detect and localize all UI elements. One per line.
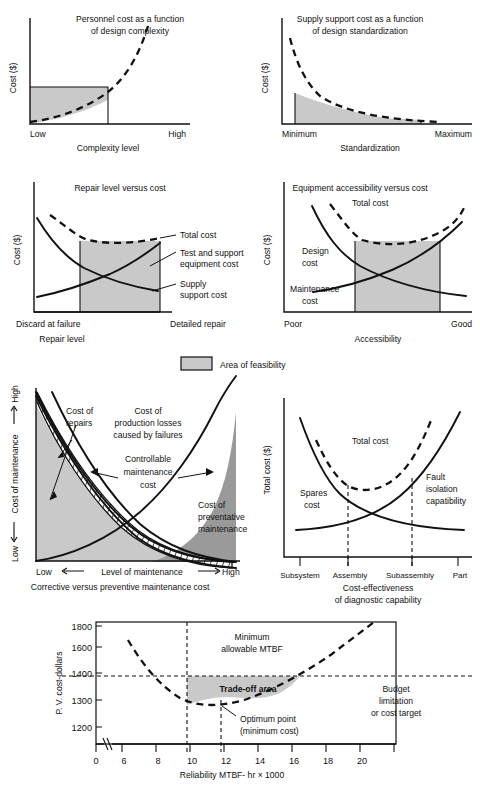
chart7-xtick-10: 10 <box>187 756 197 766</box>
chart7-ytick-1400: 1400 <box>72 669 92 679</box>
chart1-xlabel: Complexity level <box>77 143 140 153</box>
figure-container: Personnel cost as a function of design c… <box>0 0 480 786</box>
chart7-xlabel: Reliability MTBF- hr × 1000 <box>180 770 285 780</box>
chart3-leader-total <box>160 235 176 238</box>
chart5-ylabel-high: High <box>10 385 20 403</box>
chart1-xtick-low: Low <box>30 129 47 139</box>
chart5-xlabel-high: High <box>222 567 240 577</box>
chart5-label-repairs1: Cost of <box>66 406 94 416</box>
chart6-ylabel: Total cost ($) <box>262 445 272 494</box>
chart6-label-fault1: Fault <box>426 472 446 482</box>
chart6-fault-isolation-curve <box>296 412 460 530</box>
chart7-label-tradeoff: Trade-off area <box>220 684 277 694</box>
chart3-xtick-discard: Discard at failure <box>16 319 81 329</box>
chart4-xtick-poor: Poor <box>284 319 302 329</box>
chart7-ytick-1200: 1200 <box>72 723 92 733</box>
chart6-label-total: Total cost <box>352 436 389 446</box>
chart5-label-ctrl1: Controllable <box>125 454 171 464</box>
chart5-caption: Corrective versus preventive maintenance… <box>31 582 210 592</box>
chart1-xtick-high: High <box>168 129 186 139</box>
chart3-total-cost-curve <box>50 215 160 243</box>
chart7-leader-optimum <box>222 706 236 716</box>
chart5-label-prev3: maintenance <box>198 524 247 534</box>
chart7-label-budget1: Budget <box>382 684 410 694</box>
chart4-label-maint1: Maintenance <box>290 284 339 294</box>
chart7-label-minmtbf1: Minimum <box>235 632 270 642</box>
chart7-xtick-12: 12 <box>221 756 231 766</box>
chart6-xticks-marks <box>300 557 458 566</box>
chart5-label-prev1: Cost of <box>198 500 226 510</box>
chart7-ylabel: P. V. cost-dollars <box>54 651 64 714</box>
chart7-xtick-18: 18 <box>323 756 333 766</box>
chart4-label-maint2: cost <box>302 296 318 306</box>
legend-label: Area of feasibility <box>220 360 286 370</box>
chart7-ytick-1600: 1600 <box>72 643 92 653</box>
chart3-label-total: Total cost <box>180 230 217 240</box>
chart5-yarrow-low <box>11 522 17 542</box>
chart2-xtick-min: Minimum <box>282 129 317 139</box>
chart-mtbf-tradeoff: 1800 1600 1400 1300 1200 P. V. cost-doll… <box>54 622 472 780</box>
chart7-label-budget3: or cost target <box>371 708 422 718</box>
chart-corrective-vs-preventive: Cost of repairs Cost of production losse… <box>10 376 247 592</box>
chart-repair-level-cost: Repair level versus cost Total cost Test… <box>12 182 244 344</box>
chart7-label-budget2: limitation <box>379 696 413 706</box>
chart3-label-test2: equipment cost <box>180 259 239 269</box>
chart3-label-supply2: support cost <box>180 290 227 300</box>
chart-personnel-cost: Personnel cost as a function of design c… <box>8 14 190 153</box>
chart4-label-design1: Design <box>302 246 329 256</box>
chart5-label-ctrl2: maintenance <box>123 467 172 477</box>
chart5-label-ctrl3: cost <box>140 480 156 490</box>
chart7-label-minmtbf2: allowable MTBF <box>221 644 283 654</box>
chart7-xtick-20: 20 <box>357 756 367 766</box>
chart7-xtick-0: 0 <box>93 756 98 766</box>
chart2-ylabel: Cost ($) <box>260 63 270 94</box>
chart6-xtick-subassembly: Subassembly <box>386 571 434 580</box>
chart4-xlabel: Accessibility <box>355 334 403 344</box>
chart5-ylabel-low: Low <box>10 545 20 562</box>
chart5-label-prod3: caused by failures <box>113 430 182 440</box>
legend-swatch <box>181 357 212 370</box>
chart6-xtick-subsystem: Subsystem <box>280 571 320 580</box>
chart6-xtick-part: Part <box>453 571 468 580</box>
chart7-ytick-1800: 1800 <box>72 622 92 632</box>
chart5-xarrow-low <box>62 568 84 574</box>
chart4-ylabel: Cost ($) <box>262 235 272 266</box>
chart6-label-spares2: cost <box>304 500 320 510</box>
chart3-title: Repair level versus cost <box>74 183 166 193</box>
chart5-arrow-ctrl-right <box>206 468 214 476</box>
chart4-title: Equipment accessibility versus cost <box>292 183 428 193</box>
chart3-ylabel: Cost ($) <box>12 235 22 266</box>
chart-diagnostic-capability: Total cost Spares cost Fault isolation c… <box>262 398 472 605</box>
chart4-xtick-good: Good <box>451 319 472 329</box>
chart5-label-repairs2: repairs <box>66 418 92 428</box>
chart5-xarrow-high <box>198 568 220 574</box>
chart3-label-test1: Test and support <box>180 248 244 258</box>
legend-area-of-feasibility: Area of feasibility <box>181 357 286 370</box>
chart-equipment-accessibility-cost: Equipment accessibility versus cost Tota… <box>262 182 472 344</box>
chart1-ylabel: Cost ($) <box>8 63 18 94</box>
chart4-label-design2: cost <box>302 258 318 268</box>
chart7-xtick-14: 14 <box>255 756 265 766</box>
chart5-yarrow-high <box>11 406 17 424</box>
chart5-label-prod1: Cost of <box>134 406 162 416</box>
chart2-title-line1: Supply support cost as a function <box>297 14 424 24</box>
chart7-ytick-1300: 1300 <box>72 696 92 706</box>
chart7-xtick-16: 16 <box>289 756 299 766</box>
chart6-label-spares1: Spares <box>300 488 327 498</box>
chart7-xtick-6: 6 <box>121 756 126 766</box>
chart6-xtick-assembly: Assembly <box>333 571 368 580</box>
chart2-xlabel: Standardization <box>340 143 400 153</box>
chart2-title-line2: of design standardization <box>312 26 408 36</box>
chart3-xtick-detailed: Detailed repair <box>170 319 226 329</box>
chart7-label-optimum2: (minimum cost) <box>240 726 299 736</box>
chart6-label-fault2: isolation <box>426 484 458 494</box>
chart2-shaded-area <box>295 93 421 124</box>
chart-supply-support-cost: Supply support cost as a function of des… <box>260 14 472 153</box>
chart5-xlabel-mid: Level of maintenance <box>101 567 183 577</box>
chart5-label-prev2: preventative <box>198 512 245 522</box>
chart7-xtick-marks <box>96 744 394 752</box>
chart1-shaded-area <box>30 87 108 124</box>
chart5-xlabel-low: Low <box>36 567 53 577</box>
chart7-label-optimum1: Optimum point <box>240 714 296 724</box>
chart5-label-prod2: production losses <box>115 418 182 428</box>
